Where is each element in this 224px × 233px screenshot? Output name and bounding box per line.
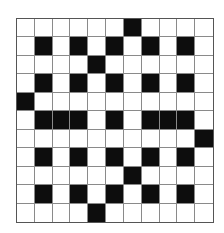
white-cell[interactable] [53,204,71,222]
white-cell[interactable] [160,56,178,74]
white-cell[interactable] [195,148,213,166]
white-cell[interactable] [53,19,71,37]
white-cell[interactable] [160,19,178,37]
white-cell[interactable] [124,37,142,55]
white-cell[interactable] [160,37,178,55]
black-cell [35,185,53,203]
white-cell[interactable] [195,93,213,111]
white-cell[interactable] [195,19,213,37]
white-cell[interactable] [177,56,195,74]
white-cell[interactable] [124,204,142,222]
white-cell[interactable] [88,19,106,37]
white-cell[interactable] [17,37,35,55]
white-cell[interactable] [88,111,106,129]
white-cell[interactable] [70,19,88,37]
white-cell[interactable] [142,19,160,37]
black-cell [142,37,160,55]
white-cell[interactable] [53,130,71,148]
white-cell[interactable] [195,37,213,55]
white-cell[interactable] [106,130,124,148]
white-cell[interactable] [88,167,106,185]
white-cell[interactable] [106,167,124,185]
white-cell[interactable] [106,93,124,111]
black-cell [142,148,160,166]
white-cell[interactable] [88,93,106,111]
white-cell[interactable] [195,167,213,185]
white-cell[interactable] [142,204,160,222]
white-cell[interactable] [35,130,53,148]
white-cell[interactable] [142,130,160,148]
white-cell[interactable] [177,167,195,185]
white-cell[interactable] [124,93,142,111]
white-cell[interactable] [70,167,88,185]
black-cell [106,185,124,203]
white-cell[interactable] [195,185,213,203]
black-cell [177,74,195,92]
black-cell [88,204,106,222]
white-cell[interactable] [17,148,35,166]
white-cell[interactable] [106,204,124,222]
white-cell[interactable] [70,93,88,111]
white-cell[interactable] [53,56,71,74]
white-cell[interactable] [35,93,53,111]
white-cell[interactable] [160,167,178,185]
white-cell[interactable] [88,148,106,166]
black-cell [160,111,178,129]
white-cell[interactable] [17,19,35,37]
crossword-grid [16,18,214,223]
white-cell[interactable] [195,111,213,129]
white-cell[interactable] [160,74,178,92]
white-cell[interactable] [195,74,213,92]
white-cell[interactable] [160,93,178,111]
white-cell[interactable] [142,56,160,74]
white-cell[interactable] [35,19,53,37]
white-cell[interactable] [17,56,35,74]
white-cell[interactable] [88,74,106,92]
white-cell[interactable] [35,167,53,185]
white-cell[interactable] [53,37,71,55]
white-cell[interactable] [124,130,142,148]
white-cell[interactable] [88,185,106,203]
white-cell[interactable] [17,111,35,129]
white-cell[interactable] [160,204,178,222]
white-cell[interactable] [35,204,53,222]
white-cell[interactable] [106,56,124,74]
white-cell[interactable] [70,130,88,148]
white-cell[interactable] [70,56,88,74]
white-cell[interactable] [124,74,142,92]
white-cell[interactable] [177,204,195,222]
white-cell[interactable] [17,167,35,185]
white-cell[interactable] [124,111,142,129]
white-cell[interactable] [53,185,71,203]
white-cell[interactable] [177,19,195,37]
black-cell [35,148,53,166]
black-cell [70,185,88,203]
white-cell[interactable] [177,93,195,111]
white-cell[interactable] [160,148,178,166]
white-cell[interactable] [53,74,71,92]
white-cell[interactable] [53,93,71,111]
white-cell[interactable] [124,148,142,166]
white-cell[interactable] [70,204,88,222]
white-cell[interactable] [160,185,178,203]
white-cell[interactable] [88,37,106,55]
white-cell[interactable] [142,93,160,111]
white-cell[interactable] [35,56,53,74]
white-cell[interactable] [88,130,106,148]
white-cell[interactable] [177,130,195,148]
white-cell[interactable] [124,185,142,203]
white-cell[interactable] [106,19,124,37]
white-cell[interactable] [195,204,213,222]
white-cell[interactable] [53,148,71,166]
white-cell[interactable] [17,185,35,203]
white-cell[interactable] [142,167,160,185]
black-cell [88,56,106,74]
white-cell[interactable] [160,130,178,148]
white-cell[interactable] [17,130,35,148]
white-cell[interactable] [17,74,35,92]
white-cell[interactable] [17,204,35,222]
white-cell[interactable] [195,56,213,74]
white-cell[interactable] [53,167,71,185]
black-cell [70,148,88,166]
white-cell[interactable] [124,56,142,74]
